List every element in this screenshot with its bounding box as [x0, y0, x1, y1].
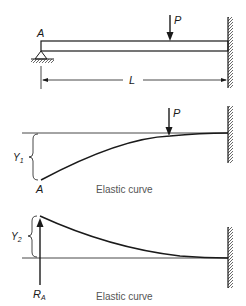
- curve-caption: Elastic curve: [96, 291, 153, 302]
- diagram-svg: A P L P Y1 A Elasti: [0, 0, 246, 306]
- load-arrow-icon: [167, 15, 174, 41]
- end-label-a: A: [35, 183, 43, 195]
- pin-support-icon: [31, 51, 54, 63]
- deflection-label-y2: Y2: [11, 231, 22, 243]
- reaction-arrow-icon: [37, 218, 44, 285]
- support-label-a: A: [36, 27, 44, 39]
- load-arrow-icon: [166, 108, 173, 136]
- fixed-wall-icon: [228, 227, 233, 288]
- elastic-curve: [40, 216, 228, 258]
- load-label-p: P: [173, 107, 181, 119]
- span-label-l: L: [129, 74, 135, 86]
- panel-beam-loaded: A P L: [31, 14, 233, 89]
- brace-icon: [29, 134, 38, 180]
- deflection-label-y1: Y1: [13, 152, 24, 164]
- panel-deflection-reaction: Y2 RA Elastic curve: [11, 216, 233, 302]
- reaction-label-ra: RA: [33, 288, 46, 301]
- beam: [41, 41, 228, 51]
- fixed-wall-icon: [228, 17, 233, 88]
- elastic-curve: [41, 133, 228, 180]
- panel-deflection-load: P Y1 A Elastic curve: [13, 106, 233, 195]
- load-label-p: P: [174, 14, 182, 26]
- fixed-wall-icon: [228, 106, 233, 163]
- beam-diagram: A P L P Y1 A Elasti: [0, 0, 246, 306]
- brace-icon: [28, 216, 37, 257]
- curve-caption: Elastic curve: [96, 184, 153, 195]
